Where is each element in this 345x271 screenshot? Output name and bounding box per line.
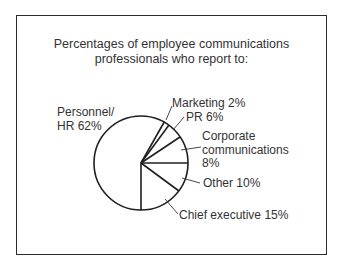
label-personnel-hr: Personnel/ HR 62% [57,105,114,133]
label-hr-line-1: Personnel/ [57,105,114,119]
label-corp-line-3: 8% [202,157,289,171]
label-corp-line-2: communications [202,144,289,158]
label-chief-executive: Chief executive 15% [179,208,288,222]
label-pr: PR 6% [186,110,223,124]
leader-pr [173,117,184,130]
label-corporate-communications: Corporate communications 8% [202,130,289,171]
pie-chart [0,0,345,271]
label-marketing: Marketing 2% [172,96,245,110]
leader-ceo [165,199,178,214]
label-corp-line-1: Corporate [202,130,289,144]
label-hr-line-2: HR 62% [57,119,114,133]
label-other: Other 10% [203,176,260,190]
